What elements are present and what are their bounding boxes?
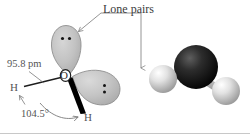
- oxygen-atom: [174, 45, 218, 89]
- water-molecule-figure: Lone pairs 95.8 pm 104.5° O H H: [0, 0, 250, 134]
- hydrogen-atom-left: [149, 65, 177, 93]
- oxygen-atom-label: O: [60, 70, 68, 81]
- leader-line-lone-pair-right: [101, 13, 141, 68]
- bond-length-label: 95.8 pm: [7, 59, 41, 70]
- hydrogen-right-label: H: [84, 112, 92, 123]
- leader-line-bond-angle: [20, 96, 26, 105]
- lone-pair-dot: [103, 84, 106, 87]
- lone-pair-dot: [68, 37, 71, 40]
- lone-pair-lobe-upper: [51, 26, 81, 76]
- hydrogen-atom-right: [212, 77, 240, 105]
- lone-pair-dot: [103, 91, 106, 94]
- leader-line-lone-pair-upper: [79, 13, 102, 32]
- bond-angle-label: 104.5°: [21, 109, 49, 120]
- ball-and-stick-model: [149, 45, 240, 105]
- hydrogen-left-label: H: [10, 82, 18, 93]
- lone-pair-dot: [61, 37, 64, 40]
- leader-line-bond-length: [29, 72, 44, 84]
- lone-pairs-label: Lone pairs: [103, 3, 154, 15]
